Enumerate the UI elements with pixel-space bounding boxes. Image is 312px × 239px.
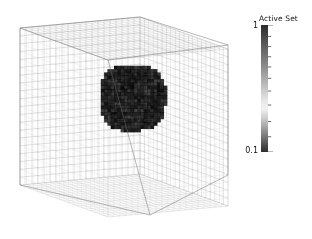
colorbar-title: Active Set: [259, 14, 298, 23]
colorbar: Active Set 1 0.1: [0, 0, 312, 239]
colorbar-tick-marks: [268, 25, 278, 152]
colorbar-gradient-bar: [261, 25, 268, 152]
colorbar-min-label: 0.1: [237, 146, 258, 155]
colorbar-max-label: 1: [244, 21, 258, 30]
figure-canvas: Active Set 1 0.1: [0, 0, 312, 239]
